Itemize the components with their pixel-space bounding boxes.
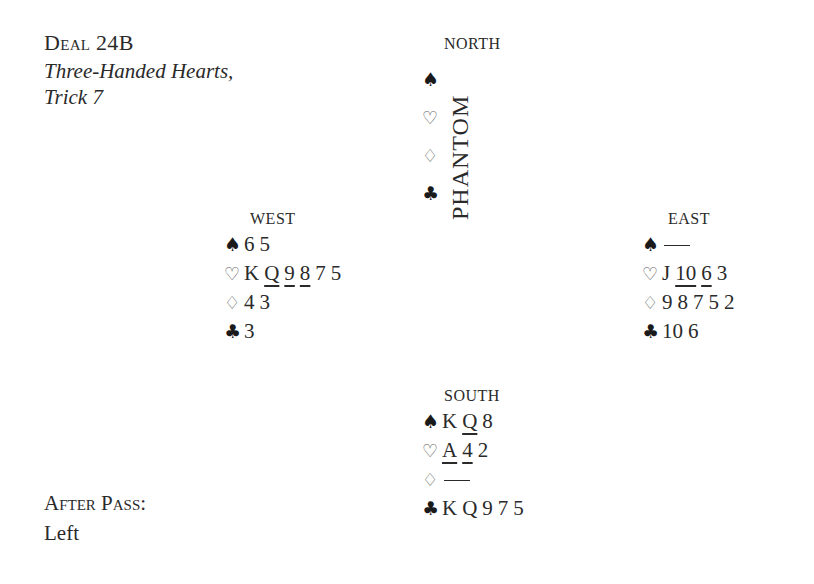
west-hand: WEST ♠65 ♡KQ9875 ♢43 ♣3: [224, 208, 346, 346]
west-spades-row: ♠65: [224, 230, 346, 259]
after-pass-label: After Pass:: [44, 490, 146, 516]
card-list: 106: [662, 319, 704, 343]
card: 4: [244, 288, 255, 317]
card: 6: [244, 230, 255, 259]
club-icon: ♣: [224, 317, 244, 346]
card: 3: [244, 317, 255, 346]
void-dash: [444, 480, 470, 481]
card: 4: [462, 436, 473, 465]
north-clubs-row: ♣: [422, 174, 442, 212]
club-icon: ♣: [422, 494, 442, 523]
south-clubs-row: ♣KQ975: [422, 494, 529, 523]
card: 5: [709, 288, 720, 317]
diamond-icon: ♢: [422, 465, 442, 494]
south-hand: SOUTH ♠KQ8 ♡A42 ♢ ♣KQ975: [422, 385, 529, 523]
club-icon: ♣: [642, 317, 662, 346]
spade-icon: ♠: [422, 407, 442, 436]
north-diamonds-row: ♢: [422, 136, 442, 174]
card-list: [662, 232, 690, 256]
north-hand: ♠ ♡ ♢ ♣: [422, 60, 442, 212]
card-list: 3: [244, 319, 260, 343]
card: 9: [662, 288, 673, 317]
card: 5: [513, 494, 524, 523]
spade-icon: ♠: [642, 230, 662, 259]
card: 8: [678, 288, 689, 317]
card: 10: [662, 317, 683, 346]
spade-icon: ♠: [422, 60, 442, 98]
card: 10: [675, 259, 696, 288]
card: A: [442, 436, 457, 465]
card: 2: [478, 436, 489, 465]
card: 9: [284, 259, 295, 288]
heart-icon: ♡: [642, 259, 662, 288]
spade-icon: ♠: [224, 230, 244, 259]
card: Q: [462, 407, 477, 436]
west-clubs-row: ♣3: [224, 317, 346, 346]
east-hand: EAST ♠ ♡J1063 ♢98752 ♣106: [642, 208, 740, 346]
card: 8: [300, 259, 311, 288]
card: 2: [724, 288, 735, 317]
east-label: EAST: [642, 208, 740, 230]
card: 8: [482, 407, 493, 436]
card-list: KQ9875: [244, 261, 346, 285]
diamond-icon: ♢: [642, 288, 662, 317]
card: K: [442, 494, 457, 523]
phantom-label: PHANTOM: [448, 95, 472, 220]
heart-icon: ♡: [224, 259, 244, 288]
card: K: [442, 407, 457, 436]
card: Q: [462, 494, 477, 523]
west-label: WEST: [224, 208, 346, 230]
card: Q: [264, 259, 279, 288]
heart-icon: ♡: [422, 99, 442, 137]
card-list: [442, 467, 470, 491]
south-hearts-row: ♡A42: [422, 436, 529, 465]
diamond-icon: ♢: [422, 137, 442, 175]
east-diamonds-row: ♢98752: [642, 288, 740, 317]
card: 9: [482, 494, 493, 523]
south-label: SOUTH: [422, 385, 529, 407]
void-dash: [664, 245, 690, 246]
east-clubs-row: ♣106: [642, 317, 740, 346]
south-spades-row: ♠KQ8: [422, 407, 529, 436]
north-hearts-row: ♡: [422, 98, 442, 136]
after-pass-value: Left: [44, 520, 79, 546]
deal-subtitle: Three-Handed Hearts,: [44, 58, 233, 84]
north-spades-row: ♠: [422, 60, 442, 98]
card: 6: [688, 317, 699, 346]
west-hearts-row: ♡KQ9875: [224, 259, 346, 288]
east-spades-row: ♠: [642, 230, 740, 259]
card-list: 43: [244, 290, 275, 314]
card-list: 65: [244, 232, 275, 256]
card-list: KQ8: [442, 409, 498, 433]
card: 3: [717, 259, 728, 288]
card: 6: [701, 259, 712, 288]
card: 3: [260, 288, 271, 317]
card-list: A42: [442, 438, 493, 462]
card: K: [244, 259, 259, 288]
deal-title: Deal 24B: [44, 30, 134, 56]
east-hearts-row: ♡J1063: [642, 259, 740, 288]
heart-icon: ♡: [422, 436, 442, 465]
card: 5: [260, 230, 271, 259]
card-list: J1063: [662, 261, 732, 285]
card-list: 98752: [662, 290, 740, 314]
card: J: [662, 259, 670, 288]
card-list: KQ975: [442, 496, 529, 520]
card: 7: [498, 494, 509, 523]
diamond-icon: ♢: [224, 288, 244, 317]
card: 7: [693, 288, 704, 317]
card: 5: [331, 259, 342, 288]
card: 7: [315, 259, 326, 288]
west-diamonds-row: ♢43: [224, 288, 346, 317]
south-diamonds-row: ♢: [422, 465, 529, 494]
north-label: NORTH: [444, 33, 501, 55]
club-icon: ♣: [422, 174, 442, 212]
deal-trick: Trick 7: [44, 84, 103, 110]
